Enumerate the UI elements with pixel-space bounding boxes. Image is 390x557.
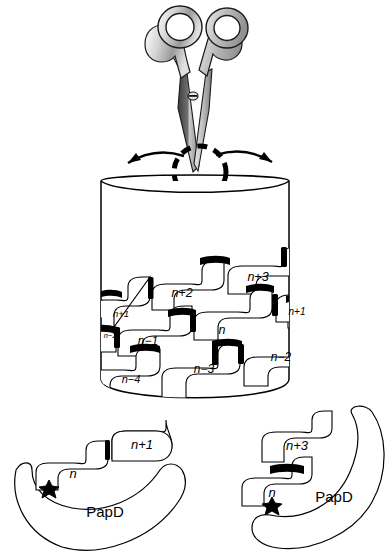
scissors-pivot-slot: [189, 95, 197, 97]
subunit-label: n+3: [247, 270, 268, 284]
connector-bar: [272, 294, 278, 316]
scissors-icon: [145, 6, 248, 172]
connector-bar: [105, 440, 110, 460]
connector-bar: [190, 310, 196, 332]
papd-complex-right: n+3 n PapD: [242, 406, 384, 548]
papd-complex-left: n n+1 PapD: [15, 420, 186, 550]
figure-canvas: n+3 n+2 n+1 n+1 n n−1 n−2 n−2 n−3 n−4 n …: [0, 0, 390, 557]
subunit-label: n: [268, 485, 275, 500]
subunit-label: n+1: [113, 308, 129, 319]
subunit-label: n+3: [286, 438, 309, 453]
scissors-ring-left-inner: [166, 14, 194, 41]
connector-bar: [281, 247, 287, 267]
connector-bar: [286, 294, 312, 303]
subunit-label: n: [219, 323, 226, 337]
connector-bar: [238, 344, 244, 364]
subunit-label: n−2: [271, 350, 292, 364]
connector-bar: [270, 464, 304, 474]
subunit-label: n−4: [122, 373, 141, 385]
subunit-label: n−1: [138, 334, 158, 348]
figure-svg: n+3 n+2 n+1 n+1 n n−1 n−2 n−2 n−3 n−4 n …: [0, 0, 390, 557]
scissors-blade-right: [194, 69, 212, 171]
connector-bar: [148, 277, 154, 299]
subunit-label: n+1: [131, 437, 153, 452]
subunit-label: n−2: [104, 331, 118, 340]
subunit-shape: [262, 411, 332, 462]
chaperone-label: PapD: [86, 503, 124, 520]
subunit-label: n−3: [194, 362, 215, 376]
arrow-right: [216, 152, 272, 162]
arrow-right-head: [259, 152, 272, 162]
scissors-ring-right-inner: [214, 16, 240, 41]
cylinder-top-back: [101, 175, 289, 181]
subunit-shape: [242, 457, 312, 506]
chaperone-label: PapD: [315, 488, 353, 505]
pilus-rod-cylinder: n+3 n+2 n+1 n+1 n n−1 n−2 n−2 n−3 n−4: [86, 175, 320, 398]
subunit-label: n+2: [171, 286, 192, 300]
subunit-label: n: [69, 466, 76, 481]
arrow-left-head: [128, 153, 141, 163]
connector-bar: [296, 331, 320, 340]
subunit-label: n+1: [289, 306, 306, 317]
